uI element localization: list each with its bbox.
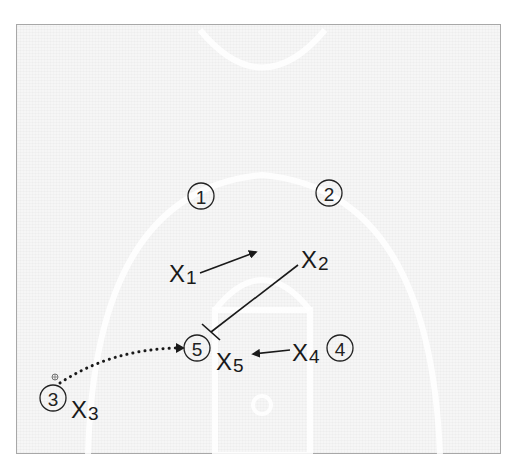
offense-player-4[interactable]: 4 <box>327 335 353 361</box>
defender-subscript: 3 <box>88 403 99 424</box>
offense-player-5[interactable]: 5 <box>184 335 210 361</box>
basketball-icon <box>52 374 58 380</box>
free-throw-circle <box>215 280 310 310</box>
defender-letter: X <box>292 339 308 366</box>
defender-subscript: 4 <box>309 346 320 367</box>
pass-3-to-5-dotted <box>60 348 176 383</box>
defender-letter: X <box>71 396 87 423</box>
player-number: 3 <box>48 389 59 410</box>
defender-letter: X <box>216 348 232 375</box>
player-number: 5 <box>192 339 203 360</box>
defender-subscript: 2 <box>318 253 329 274</box>
x1-movement-arrow <box>200 252 256 273</box>
player-number: 4 <box>335 339 346 360</box>
rim <box>253 396 271 414</box>
player-number: 2 <box>324 184 335 205</box>
free-throw-lane <box>215 310 310 455</box>
defense-player-x2[interactable]: X 2 <box>301 246 329 274</box>
offense-player-2[interactable]: 2 <box>316 180 342 206</box>
defender-letter: X <box>169 260 185 287</box>
offense-player-3[interactable]: 3 <box>40 385 66 411</box>
x4-movement-arrow <box>253 350 290 354</box>
defense-player-x1[interactable]: X 1 <box>169 260 197 288</box>
defender-subscript: 5 <box>233 355 244 376</box>
defense-player-x5[interactable]: X 5 <box>216 348 244 376</box>
defense-player-x4[interactable]: X 4 <box>292 339 320 367</box>
court-markings <box>88 30 440 455</box>
defender-letter: X <box>301 246 317 273</box>
player-number: 1 <box>196 187 207 208</box>
center-circle-arc <box>200 30 325 68</box>
defender-subscript: 1 <box>186 267 197 288</box>
play-diagram: 1 2 3 4 5 X 1 X 2 X 3 X 4 X 5 <box>0 0 514 469</box>
